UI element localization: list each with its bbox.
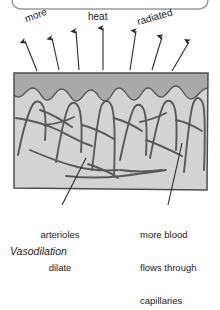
label-heat: heat (88, 12, 107, 23)
leader-line-arterioles (62, 158, 86, 205)
annotation-capillaries-line3: capillaries (140, 295, 216, 306)
annotation-arterioles-line1: arterioles (24, 229, 96, 240)
annotation-more-blood-capillaries: more blood flows through capillaries (140, 207, 216, 310)
annotation-arterioles-line2: dilate (24, 262, 96, 273)
leader-line-capillaries (168, 143, 182, 205)
figure-caption: Vasodilation (10, 246, 67, 257)
annotation-capillaries-line1: more blood (140, 229, 216, 240)
annotation-capillaries-line2: flows through (140, 262, 216, 273)
